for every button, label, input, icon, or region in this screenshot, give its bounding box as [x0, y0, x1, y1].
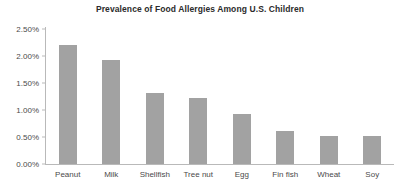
y-tick-label: 2.00% [16, 52, 39, 61]
x-tick-label: Egg [235, 170, 249, 179]
bar-slot [46, 29, 90, 164]
bar-slot [264, 29, 308, 164]
x-tick-label: Peanut [55, 170, 80, 179]
plot-area: 0.00%0.50%1.00%1.50%2.00%2.50% [46, 29, 394, 164]
x-tick-label: Wheat [317, 170, 340, 179]
bar-slot [177, 29, 221, 164]
bar-chart: Prevalence of Food Allergies Among U.S. … [0, 0, 400, 193]
x-tick-label: Tree nut [184, 170, 214, 179]
y-tick-label: 0.50% [16, 133, 39, 142]
x-tick-label: Milk [104, 170, 118, 179]
chart-title: Prevalence of Food Allergies Among U.S. … [0, 4, 400, 14]
x-tick-label: Soy [365, 170, 379, 179]
x-axis-line [45, 164, 394, 165]
y-tick-label: 2.50% [16, 25, 39, 34]
bar-slot [351, 29, 395, 164]
bar [363, 136, 381, 164]
bar [146, 93, 164, 164]
bar [102, 60, 120, 164]
bar-slot [133, 29, 177, 164]
bar [189, 98, 207, 164]
x-tick-label: Shellfish [140, 170, 170, 179]
bar [233, 114, 251, 164]
y-tick-label: 0.00% [16, 160, 39, 169]
bar [276, 131, 294, 164]
bar-slot [90, 29, 134, 164]
bar-slot [220, 29, 264, 164]
y-tick-label: 1.50% [16, 79, 39, 88]
x-tick-label: Fin fish [272, 170, 298, 179]
bar-slot [307, 29, 351, 164]
bar [320, 136, 338, 164]
y-tick-label: 1.00% [16, 106, 39, 115]
bar [59, 45, 77, 164]
